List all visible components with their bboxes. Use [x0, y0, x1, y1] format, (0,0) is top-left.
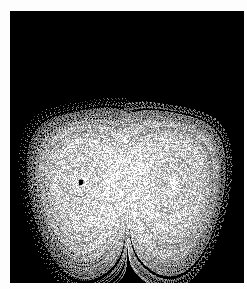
chart-xlabel: [0, 0, 1, 1]
figure-page: [0, 0, 247, 289]
chart-ylabel: [0, 0, 1, 1]
lorenz-attractor-scatter-canvas: [10, 11, 244, 283]
chart-title: [0, 0, 1, 1]
plot-area: [10, 11, 244, 283]
